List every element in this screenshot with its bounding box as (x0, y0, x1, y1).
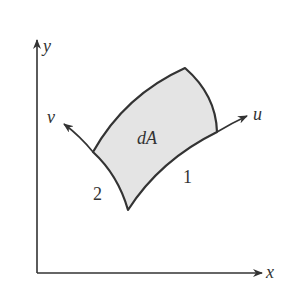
v-label: v (47, 107, 55, 127)
curve-1-label: 1 (183, 167, 192, 187)
region-label-dA: dA (137, 128, 158, 148)
x-axis-label: x (265, 262, 274, 282)
u-label: u (253, 104, 262, 124)
u-curve-arrow (217, 116, 247, 132)
y-axis-label: y (41, 36, 51, 56)
area-element-diagram: y x u v dA 1 2 (0, 0, 288, 284)
v-curve-arrow (64, 124, 93, 152)
curve-2-label: 2 (93, 184, 102, 204)
